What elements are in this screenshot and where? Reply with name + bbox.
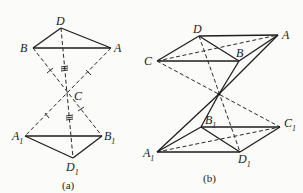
edge-B1D1 bbox=[201, 127, 240, 152]
tick-CD1-2 bbox=[66, 117, 73, 118]
tick-BC bbox=[47, 68, 53, 73]
label-D: D bbox=[55, 14, 65, 28]
edge-DB bbox=[33, 28, 61, 48]
label-B: B bbox=[236, 46, 244, 60]
figure-root: D B A C A1 B1 D1 (a) bbox=[0, 0, 303, 193]
tick-DC-2 bbox=[61, 68, 68, 69]
label-D1: D1 bbox=[65, 160, 79, 177]
figure-b: D A B C B1 C1 A1 D1 (b) bbox=[142, 22, 296, 185]
label-B: B bbox=[20, 41, 28, 55]
center-point bbox=[217, 92, 220, 95]
figure-a: D B A C A1 B1 D1 (a) bbox=[11, 14, 122, 192]
caption-a: (a) bbox=[62, 179, 75, 192]
dashed-A1C1 bbox=[157, 127, 280, 152]
tick-DC-3 bbox=[61, 70, 68, 71]
edge-BA bbox=[239, 35, 278, 61]
edge-A-O bbox=[219, 35, 278, 94]
tick-DC-1 bbox=[61, 66, 68, 67]
edge-A1D1 bbox=[25, 136, 73, 158]
tick-CD1-3 bbox=[66, 119, 73, 120]
label-A1: A1 bbox=[142, 146, 154, 163]
edge-DC bbox=[157, 36, 199, 61]
edge-D1B1 bbox=[73, 136, 102, 158]
label-A1: A1 bbox=[11, 129, 23, 146]
label-C: C bbox=[144, 54, 153, 68]
label-A: A bbox=[281, 28, 290, 42]
caption-b: (b) bbox=[203, 172, 216, 185]
edge-DB bbox=[199, 36, 239, 61]
dashed-CA bbox=[157, 35, 278, 61]
label-A: A bbox=[113, 41, 122, 55]
tick-CD1-1 bbox=[66, 115, 73, 116]
geometry-diagram: D B A C A1 B1 D1 (a) bbox=[0, 0, 303, 193]
label-C: C bbox=[74, 89, 83, 103]
edge-DA bbox=[61, 28, 111, 48]
label-D: D bbox=[192, 22, 202, 36]
label-D1: D1 bbox=[237, 152, 251, 169]
edge-DA bbox=[199, 35, 278, 36]
label-C1: C1 bbox=[284, 116, 296, 133]
equal-marks bbox=[45, 66, 91, 120]
dashed-A-C-A1 bbox=[25, 48, 111, 136]
tick-CB1 bbox=[78, 107, 84, 111]
label-B1: B1 bbox=[104, 129, 115, 146]
